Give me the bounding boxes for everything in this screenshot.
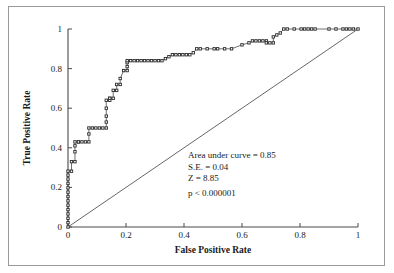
y-axis-title: True Positive Rate [22, 91, 32, 166]
x-tick-label: 0.8 [294, 230, 305, 240]
x-tick-label: 1 [356, 230, 361, 240]
area-under-curve-text: Area under curve = 0.85 [188, 150, 318, 162]
y-tick-label: 0.2 [38, 182, 62, 192]
y-tick-label: 0.8 [38, 64, 62, 74]
statistics-annotation: Area under curve = 0.85 S.E. = 0.04 Z = … [188, 150, 318, 199]
z-statistic-text: Z = 8.85 [188, 173, 318, 185]
y-tick-label: 0.4 [38, 143, 62, 153]
x-tick-label: 0.2 [120, 230, 131, 240]
y-tick-label: 0 [38, 222, 62, 232]
p-value-text: p < 0.000001 [188, 188, 318, 200]
x-tick-label: 0 [66, 230, 71, 240]
x-tick-label: 0.4 [178, 230, 189, 240]
plot-area [0, 0, 394, 273]
roc-curve-figure: 00.20.40.60.81 00.20.40.60.81 False Posi… [0, 0, 394, 273]
y-tick-label: 0.6 [38, 103, 62, 113]
y-tick-label: 1 [38, 24, 62, 34]
x-axis-title: False Positive Rate [175, 245, 252, 255]
standard-error-text: S.E. = 0.04 [188, 162, 318, 174]
x-tick-label: 0.6 [236, 230, 247, 240]
